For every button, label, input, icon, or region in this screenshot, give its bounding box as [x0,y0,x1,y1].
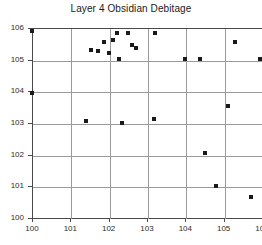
data-point [249,195,253,199]
gridline-vertical [71,29,72,219]
data-point [111,38,115,42]
data-point [107,51,111,55]
data-point [183,57,187,61]
gridline-vertical [148,29,149,219]
data-point [258,57,262,61]
plot-area [32,28,262,218]
x-axis-tick [224,218,225,222]
y-axis-tick-label: 103 [2,118,24,127]
gridline-vertical [225,29,226,219]
x-axis-tick-label: 101 [57,224,83,233]
y-axis-tick [28,186,32,187]
gridline-vertical [110,29,111,219]
x-axis-tick-label: 106 [249,224,262,233]
y-axis-tick-label: 101 [2,181,24,190]
data-point [126,31,130,35]
y-axis-tick [28,155,32,156]
data-point [153,31,157,35]
data-point [117,57,121,61]
x-axis-tick-label: 103 [134,224,160,233]
data-point [134,46,138,50]
y-axis-tick-label: 102 [2,150,24,159]
x-axis-tick [70,218,71,222]
data-point [115,31,119,35]
x-axis-tick [32,218,33,222]
data-point [233,40,237,44]
x-axis-tick [109,218,110,222]
y-axis-tick [28,123,32,124]
x-axis-tick-label: 100 [19,224,45,233]
data-point [84,119,88,123]
data-point [30,91,34,95]
data-point [89,48,93,52]
x-axis-tick-label: 102 [96,224,122,233]
data-point [226,104,230,108]
x-axis-tick-label: 105 [211,224,237,233]
data-point [120,121,124,125]
y-axis-tick-label: 104 [2,86,24,95]
data-point [214,184,218,188]
data-point [102,40,106,44]
x-axis-tick-label: 104 [172,224,198,233]
scatter-plot-figure: Layer 4 Obsidian Debitage 10010110210310… [0,0,262,245]
data-point [198,57,202,61]
chart-title: Layer 4 Obsidian Debitage [0,3,262,14]
y-axis-tick [28,60,32,61]
x-axis-tick [147,218,148,222]
x-axis-tick [185,218,186,222]
y-axis-tick-label: 100 [2,213,24,222]
data-point [203,151,207,155]
data-point [96,49,100,53]
y-axis-tick-label: 105 [2,55,24,64]
data-point [30,29,34,33]
y-axis-tick-label: 106 [2,23,24,32]
data-point [152,117,156,121]
